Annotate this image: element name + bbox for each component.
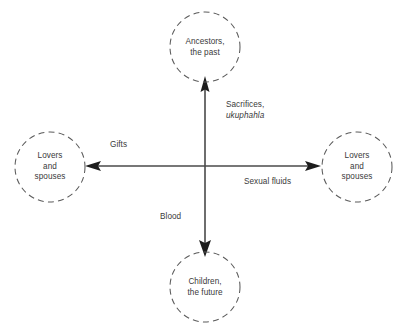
edge-label-sexual-fluids-line1: Sexual fluids — [244, 177, 291, 186]
edge-label-sacrifices: Sacrifices, ukuphahla — [226, 100, 264, 121]
edge-label-blood: Blood — [160, 212, 181, 223]
edge-label-gifts-line1: Gifts — [110, 140, 127, 149]
node-circle-children[interactable] — [170, 252, 240, 322]
edge-label-blood-line1: Blood — [160, 212, 181, 221]
edge-label-sexual-fluids: Sexual fluids — [244, 177, 291, 188]
diagram-canvas: Ancestors, the past Lovers and spouses L… — [0, 0, 409, 328]
node-circle-lovers-right[interactable] — [322, 132, 392, 202]
edge-label-gifts: Gifts — [110, 140, 127, 151]
edge-label-ukuphahla: ukuphahla — [226, 111, 264, 122]
node-circle-ancestors[interactable] — [170, 12, 240, 82]
edge-label-sacrifices-line1: Sacrifices, — [226, 100, 264, 109]
node-circle-lovers-left[interactable] — [15, 132, 85, 202]
diagram-vector-layer — [0, 0, 409, 328]
